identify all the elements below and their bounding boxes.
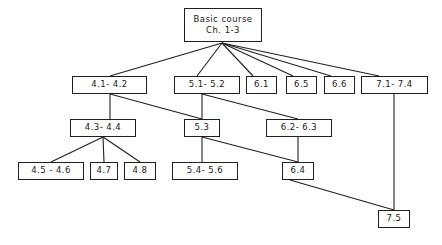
edge-n43_44-to-n45_46: [51, 137, 103, 162]
node-n51_52[interactable]: 5.1- 5.2: [174, 76, 240, 94]
node-label: 4.7: [97, 165, 112, 176]
node-n47[interactable]: 4.7: [90, 162, 118, 180]
edge-root-to-n66: [222, 43, 331, 76]
node-label: 5.1- 5.2: [189, 79, 225, 90]
edge-n43_44-to-n47: [103, 137, 104, 162]
node-label: 6.5: [294, 79, 309, 90]
edge-root-to-n61: [222, 43, 253, 76]
node-label: 5.3: [195, 122, 210, 133]
edge-n53-to-n64: [202, 137, 298, 162]
node-label: Basic course: [193, 14, 252, 25]
node-label: 6.6: [332, 79, 347, 90]
node-root[interactable]: Basic courseCh. 1-3: [184, 8, 262, 42]
edge-root-to-n65: [222, 43, 293, 76]
edge-n41_42-to-n53: [110, 94, 202, 119]
node-n66[interactable]: 6.6: [324, 76, 355, 94]
node-label: 6.2- 6.3: [281, 122, 317, 133]
node-label: 4.8: [133, 165, 148, 176]
node-label: 4.1- 4.2: [91, 79, 127, 90]
node-label: 7.5: [387, 213, 402, 224]
edge-n43_44-to-n48: [103, 137, 140, 162]
node-n75[interactable]: 7.5: [378, 210, 410, 228]
node-n71_74[interactable]: 7.1- 7.4: [361, 76, 428, 94]
node-label: 6.1: [254, 79, 269, 90]
edge-n64-to-n75: [290, 180, 394, 210]
node-n43_44[interactable]: 4.3- 4.4: [70, 119, 136, 137]
course-hierarchy-diagram: Basic courseCh. 1-34.1- 4.25.1- 5.26.16.…: [0, 0, 442, 245]
node-label: 4.5 - 4.6: [31, 165, 71, 176]
node-label: 6.4: [291, 165, 306, 176]
node-sublabel: Ch. 1-3: [206, 25, 240, 36]
node-label: 5.4- 5.6: [187, 165, 223, 176]
node-n64[interactable]: 6.4: [282, 162, 314, 180]
node-n41_42[interactable]: 4.1- 4.2: [72, 76, 147, 94]
node-n54_56[interactable]: 5.4- 5.6: [172, 162, 238, 180]
node-n45_46[interactable]: 4.5 - 4.6: [18, 162, 84, 180]
edge-root-to-n41_42: [110, 43, 222, 76]
node-n48[interactable]: 4.8: [124, 162, 156, 180]
node-n61[interactable]: 6.1: [246, 76, 277, 94]
edge-root-to-n71_74: [222, 43, 379, 76]
node-n62_63[interactable]: 6.2- 6.3: [266, 119, 332, 137]
node-n65[interactable]: 6.5: [286, 76, 317, 94]
edge-root-to-n51_52: [197, 43, 222, 76]
node-label: 4.3- 4.4: [85, 122, 121, 133]
node-n53[interactable]: 5.3: [184, 119, 220, 137]
node-label: 7.1- 7.4: [376, 79, 412, 90]
edge-n51_52-to-n62_63: [202, 94, 298, 119]
